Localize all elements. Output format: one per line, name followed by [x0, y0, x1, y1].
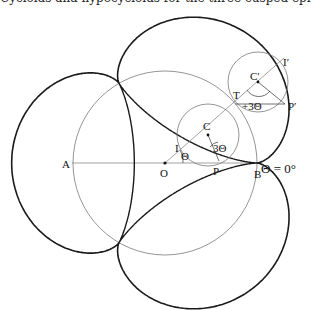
point-c [207, 134, 210, 137]
label-c: C [203, 120, 210, 132]
label-pprime: P′ [288, 100, 297, 112]
label-theta: Θ [181, 150, 189, 162]
cprime-angle-arc [247, 90, 270, 97]
label-theta-zero: Θ = 0° [261, 161, 296, 176]
label-plus-three-theta: +3Θ [242, 100, 262, 112]
label-t: T [233, 89, 240, 101]
label-three-theta: 3Θ [213, 142, 227, 154]
point-o [163, 161, 166, 164]
label-p: P [213, 165, 219, 177]
label-o: O [160, 167, 168, 179]
label-iprime: I′ [283, 56, 289, 68]
cprime-to-pprime-line [258, 82, 285, 104]
label-cprime: C′ [250, 70, 260, 82]
epicycloid-diagram: A O B P I C T C′ I′ P′ Θ 3Θ +3Θ Θ = 0° [0, 0, 311, 310]
label-a: A [62, 158, 70, 170]
label-i: I [175, 142, 179, 154]
